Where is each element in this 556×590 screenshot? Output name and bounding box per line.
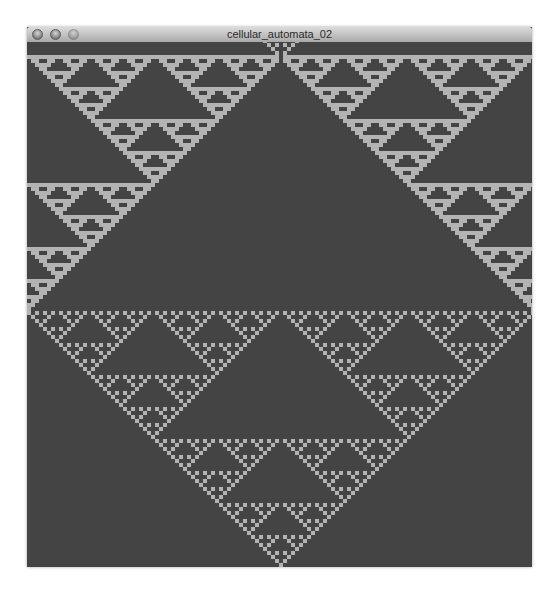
cellular-automaton-canvas	[27, 42, 532, 567]
window-title: cellular_automata_02	[27, 27, 532, 42]
sketch-canvas-area	[27, 42, 532, 567]
app-window: cellular_automata_02	[27, 27, 532, 567]
title-bar[interactable]: cellular_automata_02	[27, 27, 532, 43]
